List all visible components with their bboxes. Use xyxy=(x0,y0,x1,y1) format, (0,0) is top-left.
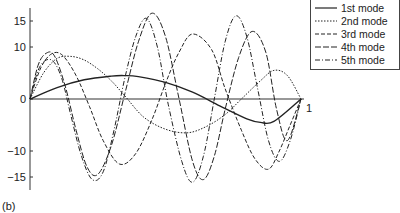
y-tick-label: 15 xyxy=(14,15,26,27)
legend-item-1st-mode: 1st mode xyxy=(315,1,384,14)
legend-item-2nd-mode: 2nd mode xyxy=(315,14,388,27)
y-tick-label: 0 xyxy=(20,93,26,105)
dotted-line-icon xyxy=(315,19,337,23)
dashed-line-icon xyxy=(315,32,337,36)
legend-label: 4th mode xyxy=(341,41,385,53)
solid-line-icon xyxy=(315,6,337,10)
legend-label: 2nd mode xyxy=(341,15,388,27)
legend-label: 1st mode xyxy=(341,2,384,14)
figure-caption: (b) xyxy=(2,200,15,212)
x-tick-label: 1 xyxy=(306,102,312,114)
legend-item-5th-mode: 5th mode xyxy=(315,53,385,66)
series-4th-mode xyxy=(30,13,301,180)
y-tick-label: −15 xyxy=(7,171,26,183)
legend-item-3rd-mode: 3rd mode xyxy=(315,27,385,40)
curves xyxy=(30,13,301,182)
y-tick-label: 10 xyxy=(14,41,26,53)
series-2nd-mode xyxy=(30,56,301,133)
legend: 1st mode 2nd mode 3rd mode 4th mode 5th … xyxy=(310,0,400,70)
long-dash-line-icon xyxy=(315,45,337,49)
legend-label: 5th mode xyxy=(341,54,385,66)
legend-label: 3rd mode xyxy=(341,28,385,40)
y-tick-label: −10 xyxy=(7,145,26,157)
dash-dot-line-icon xyxy=(315,58,337,62)
legend-item-4th-mode: 4th mode xyxy=(315,40,385,53)
